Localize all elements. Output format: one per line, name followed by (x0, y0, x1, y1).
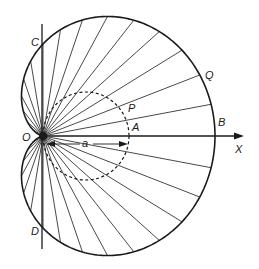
dimension-arrowhead-right (119, 141, 128, 147)
label-c: C (31, 37, 39, 48)
label-a-length: a (82, 138, 88, 149)
label-x: X (235, 144, 242, 155)
label-d: D (31, 226, 39, 237)
x-axis-arrowhead (234, 133, 244, 140)
label-p: P (128, 103, 135, 114)
label-b: B (218, 117, 225, 128)
origin-point (39, 132, 47, 140)
label-o: O (22, 132, 31, 143)
label-a-point: A (132, 122, 139, 133)
label-q: Q (205, 70, 214, 81)
